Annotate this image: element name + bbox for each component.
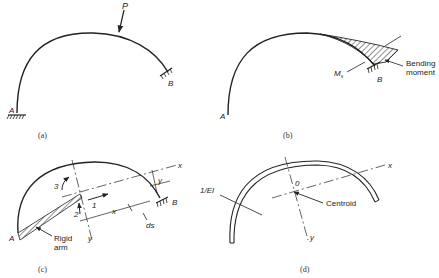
arch-curve — [17, 33, 168, 113]
caption-b: (b) — [283, 131, 293, 140]
width-label: 1/EI — [200, 186, 215, 195]
annotation-arrow-icon — [36, 227, 52, 236]
section-line — [385, 36, 401, 46]
support-b-label: B — [377, 75, 383, 84]
rigid-arm — [18, 194, 82, 240]
load-arrow-icon — [119, 10, 124, 32]
dof-2-arrow-icon — [79, 203, 80, 214]
arch-analysis-figure: P A B (a) Ms B A Bending moment (b) — [0, 0, 439, 278]
dof-2-label: 2 — [73, 210, 79, 219]
panel-b: Ms B A Bending moment (b) — [219, 33, 436, 140]
y-axis-line — [285, 157, 308, 240]
support-a-label: A — [219, 112, 225, 121]
origin-label: 0 — [295, 179, 300, 188]
axis-x-label: x — [177, 161, 183, 170]
axis-y-label: y — [87, 234, 93, 243]
leader-line — [347, 62, 365, 72]
centroid-label: Centroid — [326, 199, 356, 208]
caption-a: (a) — [38, 131, 47, 140]
ds-label: ds — [146, 221, 154, 230]
bending-moment-diagram — [320, 34, 398, 64]
bending-label-line2: moment — [406, 68, 436, 77]
elastic-weight-strip-outer — [230, 161, 379, 243]
dof-3-rotation-icon — [62, 177, 69, 190]
ds-tick — [143, 213, 147, 220]
centroid-arrow-icon — [294, 192, 323, 203]
rigid-arm-label-line2: arm — [54, 243, 68, 252]
support-a-label: A — [8, 234, 14, 243]
dimension-x-label: x — [111, 207, 117, 216]
panel-d: x y 0 Centroid 1/EI (d) — [200, 157, 393, 274]
support-b-label: B — [172, 198, 178, 207]
caption-d: (d) — [300, 265, 310, 274]
rigid-arm-label-line1: Rigid — [54, 234, 72, 243]
annotation-arrow-icon — [385, 60, 403, 66]
fixed-support-icon — [156, 197, 168, 207]
axis-x-label: x — [387, 161, 393, 170]
panel-c: x y 1 2 3 x y ds B A Rigid arm (c) — [8, 160, 183, 274]
support-b-label: B — [168, 79, 174, 88]
caption-c: (c) — [38, 265, 47, 274]
support-a-label: A — [8, 106, 14, 115]
fixed-support-icon — [7, 115, 26, 119]
dof-3-label: 3 — [54, 182, 59, 191]
load-label: P — [122, 1, 128, 11]
panel-a: P A B (a) — [7, 1, 174, 140]
moment-label: Ms — [334, 69, 344, 79]
axis-y-label: y — [309, 233, 315, 242]
bending-label-line1: Bending — [406, 59, 435, 68]
ds-tick — [128, 204, 132, 211]
dof-1-arrow-icon — [88, 194, 108, 200]
dof-1-label: 1 — [92, 201, 96, 210]
width-marker-line — [220, 195, 262, 215]
